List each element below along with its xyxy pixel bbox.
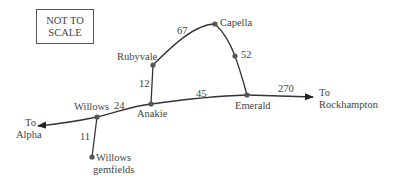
label-to-alpha-1: To <box>25 117 36 129</box>
node-anakie <box>148 101 153 106</box>
label-anakie: Anakie <box>137 108 167 120</box>
road-willows-gemfields <box>92 117 97 157</box>
label-willows-gemfields-2: gemfields <box>93 164 134 176</box>
label-to-rockhampton-1: To <box>319 87 330 99</box>
label-willows: Willows <box>74 101 109 113</box>
distance-anakie-emerald: 45 <box>196 88 207 100</box>
distance-capella-emerald: 52 <box>241 49 252 61</box>
distance-rubyvale-capella: 67 <box>177 25 188 37</box>
not-to-scale-note: NOT TO SCALE <box>36 9 94 44</box>
node-capella <box>212 21 217 26</box>
node-capella-emerald-mid <box>232 53 237 58</box>
distance-anakie-rubyvale: 12 <box>139 78 150 90</box>
node-rubyvale <box>150 62 155 67</box>
distance-willows-gemfields: 11 <box>80 131 90 143</box>
node-emerald <box>244 92 249 97</box>
label-to-alpha-2: Alpha <box>16 129 42 141</box>
node-willows-gemfields <box>89 154 94 159</box>
label-capella: Capella <box>220 17 252 29</box>
note-line-1: NOT TO <box>46 15 84 27</box>
road-anakie-rubyvale <box>151 65 153 104</box>
node-willows <box>94 114 99 119</box>
label-rubyvale: Rubyvale <box>117 51 157 63</box>
distance-willows-anakie: 24 <box>114 100 125 112</box>
distance-emerald-rockhampton: 270 <box>278 83 294 95</box>
label-emerald: Emerald <box>235 100 271 112</box>
road-to-alpha <box>38 117 97 126</box>
note-line-2: SCALE <box>48 27 81 39</box>
label-to-rockhampton-2: Rockhampton <box>319 99 378 111</box>
label-willows-gemfields-1: Willows <box>96 152 131 164</box>
road-to-rockhampton <box>247 95 313 97</box>
